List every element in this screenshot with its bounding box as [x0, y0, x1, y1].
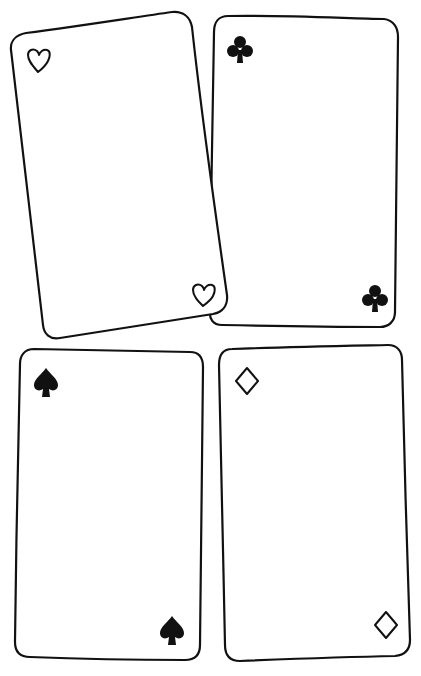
card-illustration: [0, 0, 421, 676]
card-diamonds: [219, 345, 410, 661]
card-clubs: [210, 16, 398, 327]
card-spades: [15, 349, 203, 660]
card-hearts: [11, 12, 227, 338]
